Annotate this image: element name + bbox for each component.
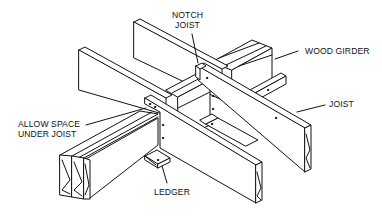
label-allow-space: ALLOW SPACE UNDER JOIST bbox=[18, 120, 80, 139]
leader-ledger bbox=[162, 166, 167, 183]
label-ledger: LEDGER bbox=[154, 188, 190, 198]
label-joist: JOIST bbox=[329, 100, 354, 110]
leader-wood-girder bbox=[275, 51, 298, 59]
framing-diagram: NOTCH JOIST WOOD GIRDER JOIST ALLOW SPAC… bbox=[0, 0, 382, 217]
label-notch-joist-line2: JOIST bbox=[172, 21, 203, 31]
leader-joist bbox=[297, 105, 325, 112]
label-wood-girder: WOOD GIRDER bbox=[305, 47, 370, 57]
label-notch-joist: NOTCH JOIST bbox=[172, 11, 203, 30]
label-allow-space-line2: UNDER JOIST bbox=[18, 130, 80, 140]
